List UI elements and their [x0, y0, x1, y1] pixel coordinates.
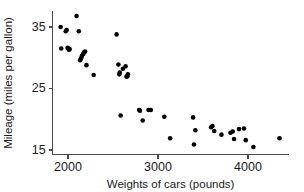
y-tick-label: 15: [32, 143, 46, 157]
data-point: [118, 113, 123, 118]
data-point: [138, 108, 143, 113]
x-axis-ticks: 200030004000: [54, 155, 262, 174]
data-point: [77, 29, 82, 34]
x-tick-label: 4000: [234, 160, 262, 174]
data-point: [114, 32, 119, 37]
data-point: [251, 145, 256, 150]
data-point: [191, 115, 196, 120]
y-tick-label: 25: [32, 81, 46, 95]
axes-group: [53, 11, 289, 155]
x-axis-title: Weights of cars (pounds): [107, 178, 235, 190]
data-point: [212, 129, 217, 134]
data-point: [67, 47, 72, 52]
data-point: [162, 114, 167, 119]
data-point: [168, 136, 173, 141]
data-point: [117, 70, 122, 75]
data-points-group: [58, 14, 281, 150]
data-point: [149, 108, 154, 113]
data-point: [230, 129, 235, 134]
x-tick-label: 3000: [144, 160, 172, 174]
data-point: [84, 63, 89, 68]
data-point: [123, 64, 128, 69]
y-tick-label: 35: [32, 20, 46, 34]
y-axis-title: Mileage (miles per gallon): [2, 17, 14, 149]
data-point: [219, 132, 224, 137]
data-point: [58, 25, 63, 30]
x-tick-label: 2000: [54, 160, 82, 174]
data-point: [91, 73, 96, 78]
data-point: [83, 49, 88, 54]
data-point: [116, 62, 121, 67]
data-point: [64, 28, 69, 33]
data-point: [243, 138, 248, 143]
data-point: [232, 137, 237, 142]
data-point: [237, 127, 242, 132]
chart-canvas: 152535 200030004000 Weights of cars (pou…: [0, 0, 304, 192]
data-point: [74, 14, 79, 19]
data-point: [126, 72, 131, 77]
y-axis-ticks: 152535: [32, 20, 53, 157]
scatter-plot-figure: 152535 200030004000 Weights of cars (pou…: [0, 0, 304, 192]
data-point: [277, 136, 282, 141]
data-point: [193, 128, 198, 133]
data-point: [140, 118, 145, 123]
data-point: [192, 142, 197, 147]
data-point: [210, 124, 215, 129]
data-point: [242, 126, 247, 131]
data-point: [59, 46, 64, 51]
